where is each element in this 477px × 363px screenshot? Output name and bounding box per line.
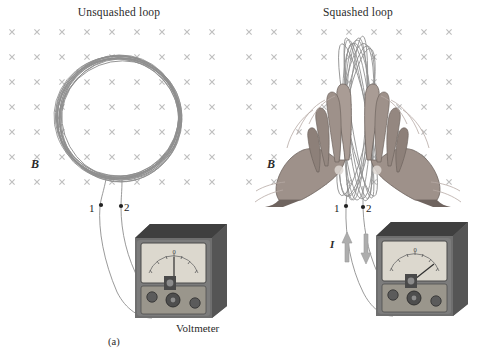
meter-zero-label-b: 0 bbox=[413, 246, 416, 253]
figure-caption-a: (a) bbox=[108, 336, 120, 347]
voltmeter-b[interactable]: 0 bbox=[239, 0, 477, 363]
panel-unsquashed-loop: Unsquashed loop B bbox=[0, 0, 238, 363]
voltmeter-a[interactable]: 0 bbox=[0, 0, 238, 363]
panel-squashed-loop: Squashed loop B bbox=[239, 0, 477, 363]
meter-zero-label-a: 0 bbox=[172, 248, 175, 255]
voltmeter-caption: Voltmeter bbox=[176, 322, 219, 334]
